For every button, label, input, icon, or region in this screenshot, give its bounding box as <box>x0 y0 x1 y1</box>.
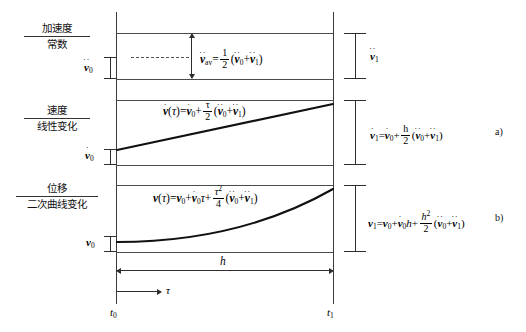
axis-label-t0: t0 <box>110 306 117 320</box>
accel-upper-level-line <box>116 33 334 34</box>
axis-label-t1: t1 <box>327 306 334 320</box>
disp-tau-frac-num-wrap: τ2 <box>213 185 224 199</box>
accel-avg-t1: v <box>250 53 255 65</box>
vel-tau-frac-den: 2 <box>203 112 212 123</box>
vel-end-plus1: + <box>394 129 400 141</box>
vel-tau-a0: v <box>218 105 223 117</box>
displacement-v1-bracket <box>344 185 366 252</box>
accel-avg-frac-den: 2 <box>220 60 229 71</box>
vel-end-term0: v <box>385 129 390 141</box>
disp-tau-lhs: v <box>153 192 158 204</box>
formula-acceleration-average: vav=12(v0+v1) <box>200 48 263 70</box>
accel-avg-lhs: v <box>200 53 205 65</box>
panel-label-acceleration: 加速度 常数 <box>24 22 90 51</box>
formula-displacement-end: v1=v0+v0h+h22(v0+v1) <box>368 210 465 234</box>
disp-end-eq: = <box>377 217 383 229</box>
vel-tau-lhs: v <box>163 105 168 117</box>
disp-end-plus2: + <box>412 217 418 229</box>
formula-displacement-tau: v(τ)=v0+v0τ+τ24(v0+v1) <box>153 185 258 209</box>
velocity-v0-label: v0 <box>85 149 94 163</box>
panel-label-velocity-bottom: 线性变化 <box>24 119 90 133</box>
accel-average-dashed-line <box>131 57 189 58</box>
tau-label: τ <box>166 284 170 296</box>
disp-tau-a1: v <box>245 192 250 204</box>
tau-arrow <box>117 291 161 292</box>
panel-label-displacement-top: 位移 <box>16 182 98 197</box>
accel-average-measure <box>191 34 192 78</box>
accel-avg-paren-close: ) <box>259 53 263 65</box>
velocity-v0-bracket <box>104 149 116 165</box>
formula-velocity-end: v1=v0+h2(v0+v1) <box>370 124 443 146</box>
disp-tau-frac-den: 4 <box>213 199 224 210</box>
vel-end-frac-den: 2 <box>401 136 410 147</box>
disp-end-frac-num-sup: 2 <box>427 209 431 218</box>
accel-v1-bracket <box>344 33 366 79</box>
vel-end-a0: v <box>415 129 420 141</box>
t0-sub: 0 <box>113 311 117 320</box>
vel-end-a1: v <box>430 129 435 141</box>
disp-end-paren-close: ) <box>461 217 465 229</box>
disp-end-lhs: v <box>368 217 373 229</box>
displacement-v0-label: v0 <box>86 236 95 250</box>
h-label-text: h <box>220 255 226 267</box>
vel-end-eq: = <box>379 129 385 141</box>
vel-tau-paren-close: ) <box>242 105 246 117</box>
displacement-v0-bracket <box>104 236 116 252</box>
panel-mark-a: a) <box>495 126 503 137</box>
accel-v1-label: v1 <box>370 50 379 64</box>
disp-tau-plus2: + <box>205 192 212 204</box>
disp-end-fraction: h22 <box>420 210 433 234</box>
disp-tau-fraction: τ24 <box>213 185 224 209</box>
vel-tau-plus1: + <box>195 105 202 117</box>
disp-end-plus1: + <box>392 217 398 229</box>
disp-end-term0: v <box>383 217 388 229</box>
panel-label-displacement: 位移 二次曲线变化 <box>16 182 98 211</box>
vel-end-frac-num: h <box>401 124 410 136</box>
vel-tau-frac-num: τ <box>203 100 212 112</box>
tau-label-text: τ <box>166 284 170 296</box>
panel-label-acceleration-bottom: 常数 <box>24 37 90 51</box>
panel-label-velocity: 速度 线性变化 <box>24 104 90 133</box>
panel-label-acceleration-top: 加速度 <box>24 22 90 37</box>
disp-tau-paren-close: ) <box>254 192 258 204</box>
accel-avg-t0: v <box>235 53 240 65</box>
vel-tau-fraction: τ2 <box>203 100 212 122</box>
vel-tau-term0: v <box>186 105 191 117</box>
vel-end-fraction: h2 <box>401 124 410 146</box>
panel-mark-b: b) <box>495 212 503 223</box>
step-size-measure <box>117 270 333 271</box>
panel-label-velocity-top: 速度 <box>24 104 90 119</box>
vel-end-paren-close: ) <box>439 129 443 141</box>
disp-end-frac-num-wrap: h2 <box>420 210 433 224</box>
t1-sub: 1 <box>330 311 334 320</box>
accel-avg-fraction: 12 <box>220 48 229 70</box>
vel-end-lhs: v <box>370 129 375 141</box>
panel-label-displacement-bottom: 二次曲线变化 <box>16 197 98 211</box>
disp-end-a0: v <box>438 217 443 229</box>
disp-end-a1: v <box>452 217 457 229</box>
accel-v0-bracket <box>104 57 116 79</box>
step-size-label: h <box>220 255 226 267</box>
disp-end-term1: v <box>398 217 403 229</box>
accel-avg-eq: = <box>212 53 219 65</box>
disp-tau-frac-num-sup: 2 <box>218 184 222 193</box>
disp-tau-term1: v <box>192 192 197 204</box>
disp-tau-plus1: + <box>185 192 192 204</box>
accel-avg-frac-num: 1 <box>220 48 229 60</box>
figure-root: 加速度 常数 速度 线性变化 位移 二次曲线变化 v0 vav=12(v0+v1… <box>0 0 526 332</box>
velocity-v1-bracket <box>344 100 366 165</box>
accel-v0-label: v0 <box>84 61 93 75</box>
accel-lower-level-line <box>116 79 334 80</box>
disp-end-frac-den: 2 <box>420 224 433 235</box>
disp-tau-a0: v <box>229 192 234 204</box>
formula-velocity-tau: v(τ)=v0+τ2(v0+v1) <box>163 100 246 122</box>
disp-tau-term0: v <box>176 192 181 204</box>
vel-tau-a1: v <box>233 105 238 117</box>
